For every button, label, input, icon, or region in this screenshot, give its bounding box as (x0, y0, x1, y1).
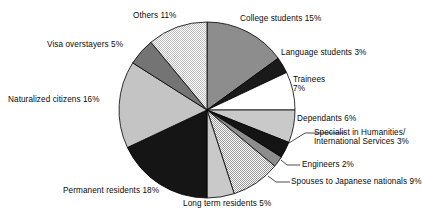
slice-label-college-students: College students 15% (240, 14, 321, 24)
slice-label-dependants: Dependants 6% (297, 114, 356, 124)
slice-label-others: Others 11% (133, 11, 176, 21)
leader-line-spouses (268, 176, 290, 182)
pie-chart-figure: College students 15% Language students 3… (0, 0, 422, 216)
slice-label-specialist-line2: International Services 3% (314, 137, 409, 147)
leader-line-engineers (281, 160, 300, 165)
slice-label-long-term-residents: Long term residents 5% (183, 199, 271, 209)
slice-label-engineers: Engineers 2% (302, 160, 354, 170)
slice-label-trainees-line2: 7% (293, 84, 305, 94)
slice-label-spouses: Spouses to Japanese nationals 9% (291, 177, 422, 187)
pie-slices-group (119, 22, 295, 198)
slice-label-permanent-residents: Permanent residents 18% (63, 186, 159, 196)
slice-label-language-students: Language students 3% (281, 48, 366, 58)
slice-label-naturalized-citizens: Naturalized citizens 16% (8, 95, 100, 105)
slice-label-visa-overstayers: Visa overstayers 5% (47, 40, 123, 50)
